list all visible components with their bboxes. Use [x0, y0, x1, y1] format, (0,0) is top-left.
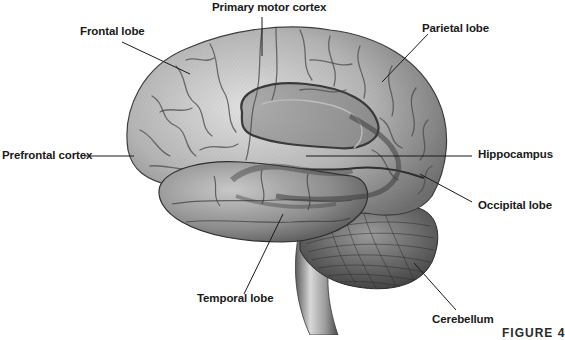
- figure-caption: FIGURE 4: [502, 326, 565, 340]
- label-cerebellum: Cerebellum: [432, 313, 494, 325]
- label-primary-motor-cortex: Primary motor cortex: [212, 1, 326, 13]
- leader-line-cerebellum: [414, 263, 456, 310]
- label-occipital-lobe: Occipital lobe: [478, 199, 552, 211]
- label-frontal-lobe: Frontal lobe: [80, 25, 145, 37]
- label-hippocampus: Hippocampus: [478, 148, 553, 160]
- label-parietal-lobe: Parietal lobe: [422, 22, 489, 34]
- label-temporal-lobe: Temporal lobe: [197, 292, 273, 304]
- label-prefrontal-cortex: Prefrontal cortex: [2, 149, 92, 161]
